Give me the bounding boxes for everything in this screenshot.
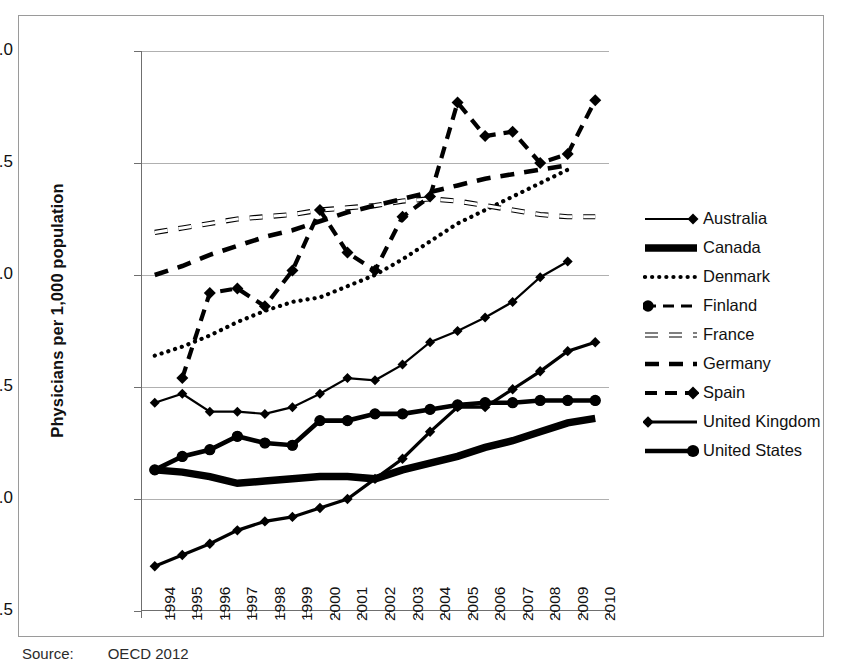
data-point-marker bbox=[507, 397, 518, 408]
data-point-marker bbox=[370, 375, 380, 385]
legend-label: France bbox=[703, 325, 754, 344]
data-point-marker bbox=[315, 503, 325, 513]
y-tick-label: 4.0 bbox=[0, 40, 13, 60]
data-point-marker bbox=[260, 409, 270, 419]
y-tick-mark bbox=[134, 163, 141, 164]
legend-item-canada[interactable]: Canada bbox=[643, 233, 843, 262]
data-point-marker bbox=[342, 415, 353, 426]
x-tick-mark bbox=[141, 611, 142, 618]
line-solid-with-diamond-marker-icon bbox=[643, 412, 699, 432]
y-tick-label: 1.5 bbox=[0, 600, 13, 620]
data-point-marker bbox=[480, 313, 490, 323]
figure-frame: Physicians per 1,000 population 1.52.02.… bbox=[18, 15, 824, 637]
legend-item-france[interactable]: France bbox=[643, 320, 843, 349]
line-solid-very-thick-icon bbox=[643, 238, 699, 258]
legend-label: Finland bbox=[703, 296, 757, 315]
data-point-marker bbox=[150, 561, 160, 571]
legend-label: Spain bbox=[703, 383, 745, 402]
legend-item-united-states[interactable]: United States bbox=[643, 436, 843, 465]
series-france bbox=[155, 199, 595, 233]
data-point-marker bbox=[453, 326, 463, 336]
data-point-marker bbox=[535, 395, 546, 406]
data-point-marker bbox=[204, 444, 215, 455]
y-tick-mark bbox=[134, 51, 141, 52]
series-path bbox=[182, 100, 595, 378]
data-point-marker bbox=[314, 415, 325, 426]
legend-label: Denmark bbox=[703, 267, 770, 286]
data-point-marker bbox=[563, 257, 573, 267]
legend-item-spain[interactable]: Spain bbox=[643, 378, 843, 407]
data-point-marker bbox=[150, 398, 160, 408]
data-point-marker bbox=[479, 130, 491, 142]
data-point-marker bbox=[590, 337, 600, 347]
source-text: OECD 2012 bbox=[108, 645, 189, 662]
data-point-marker bbox=[259, 437, 270, 448]
series-lines bbox=[141, 51, 609, 611]
line-dashed-solid-icon bbox=[643, 354, 699, 374]
y-axis-title: Physicians per 1,000 population bbox=[48, 61, 67, 561]
legend-item-united-kingdom[interactable]: United Kingdom bbox=[643, 407, 843, 436]
legend-label: Australia bbox=[703, 209, 767, 228]
series-canada bbox=[155, 418, 595, 483]
legend-label: Germany bbox=[703, 354, 771, 373]
line-dotted-icon bbox=[643, 267, 699, 287]
chart-page: Physicians per 1,000 population 1.52.02.… bbox=[0, 0, 849, 668]
source-note: Source:OECD 2012 bbox=[22, 645, 189, 662]
series-path bbox=[155, 165, 568, 275]
legend-item-germany[interactable]: Germany bbox=[643, 349, 843, 378]
y-tick-label: 2.0 bbox=[0, 488, 13, 508]
data-point-marker bbox=[562, 395, 573, 406]
data-point-marker bbox=[287, 402, 297, 412]
line-dashed-with-circle-marker-icon bbox=[643, 296, 699, 316]
series-spain bbox=[176, 94, 601, 384]
series-germany bbox=[155, 165, 568, 275]
legend-item-denmark[interactable]: Denmark bbox=[643, 262, 843, 291]
data-point-marker bbox=[590, 395, 601, 406]
source-label: Source: bbox=[22, 645, 74, 662]
data-point-marker bbox=[232, 431, 243, 442]
data-point-marker bbox=[204, 287, 216, 299]
line-dashed-hollow-icon bbox=[643, 325, 699, 345]
legend-item-finland[interactable]: Finland bbox=[643, 291, 843, 320]
legend-label: United States bbox=[703, 441, 802, 460]
data-point-marker bbox=[232, 407, 242, 417]
series-path bbox=[155, 418, 595, 483]
data-point-marker bbox=[397, 408, 408, 419]
plot-area: 1.52.02.53.03.54.0 199419951996199719981… bbox=[141, 51, 609, 611]
data-point-marker bbox=[424, 404, 435, 415]
data-point-marker bbox=[452, 399, 463, 410]
legend-label: Canada bbox=[703, 238, 761, 257]
series-path bbox=[155, 262, 568, 414]
y-tick-label: 3.5 bbox=[0, 152, 13, 172]
data-point-marker bbox=[287, 512, 297, 522]
line-dashed-with-diamond-marker-icon bbox=[643, 383, 699, 403]
data-point-marker bbox=[260, 516, 270, 526]
data-point-marker bbox=[507, 126, 519, 138]
data-point-marker bbox=[589, 94, 601, 106]
data-point-marker bbox=[342, 373, 352, 383]
y-tick-mark bbox=[134, 275, 141, 276]
data-point-marker bbox=[149, 464, 160, 475]
line-solid-with-circle-marker-icon bbox=[643, 441, 699, 461]
y-tick-mark bbox=[134, 499, 141, 500]
data-point-marker bbox=[232, 525, 242, 535]
data-point-marker bbox=[176, 372, 188, 384]
chart-legend: AustraliaCanadaDenmarkFinlandFranceGerma… bbox=[643, 204, 843, 465]
line-solid-thin-with-diamond-marker-icon bbox=[643, 209, 699, 229]
data-point-marker bbox=[177, 451, 188, 462]
y-tick-mark bbox=[134, 611, 141, 612]
y-tick-label: 3.0 bbox=[0, 264, 13, 284]
data-point-marker bbox=[177, 550, 187, 560]
y-tick-mark bbox=[134, 387, 141, 388]
data-point-marker bbox=[287, 440, 298, 451]
data-point-marker bbox=[315, 389, 325, 399]
data-point-marker bbox=[205, 539, 215, 549]
legend-item-australia[interactable]: Australia bbox=[643, 204, 843, 233]
data-point-marker bbox=[480, 397, 491, 408]
y-tick-label: 2.5 bbox=[0, 376, 13, 396]
data-point-marker bbox=[369, 408, 380, 419]
legend-label: United Kingdom bbox=[703, 412, 820, 431]
series-path-outline bbox=[155, 199, 595, 233]
series-united-kingdom bbox=[150, 337, 601, 571]
